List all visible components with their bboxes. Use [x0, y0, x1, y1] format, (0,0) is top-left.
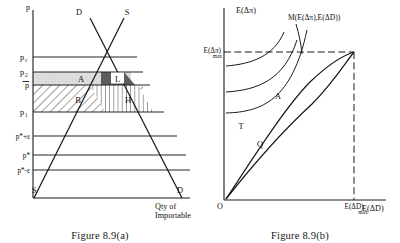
tangency-point-label: A	[275, 92, 281, 101]
figure-panel-a: D S S D p p c p 2 p p 1 p*+ε	[0, 0, 200, 243]
region-label-A: A	[78, 74, 85, 84]
curve-label-T: T	[238, 122, 243, 131]
panel-b-caption: Figure 8.9(b)	[200, 230, 400, 241]
indifference-curve-1	[226, 32, 284, 66]
price-tick-pc-sub: c	[25, 57, 28, 63]
figure-root: D S S D p p c p 2 p p 1 p*+ε	[0, 0, 400, 243]
objective-leader-line	[296, 24, 302, 54]
origin-label: O	[217, 202, 223, 211]
panel-a-caption: Figure 8.9(a)	[0, 230, 200, 241]
objective-function-label: M(E(Δπ),E(ΔD))	[288, 13, 341, 22]
y-max-label-sub: max	[213, 53, 223, 59]
panel-a-x-axis-label-line2: Importable	[155, 211, 191, 220]
panel-a-y-axis-label: p	[26, 3, 30, 12]
price-tick-pstar: p*	[23, 152, 31, 160]
indifference-curve-3	[226, 30, 307, 113]
price-tick-p1-main: p	[20, 108, 24, 117]
panel-a-chart: D S S D p p c p 2 p p 1 p*+ε	[0, 0, 200, 220]
y-max-label: E(Δπ) max	[204, 47, 223, 59]
price-tick-pbar: p	[23, 81, 30, 90]
panel-a-x-axis-label-line1: Qty of	[155, 202, 176, 211]
price-tick-pc: p c	[20, 53, 28, 63]
price-tick-p1-sub: 1	[25, 112, 28, 118]
price-tick-p1: p 1	[20, 108, 28, 118]
price-tick-pc-main: p	[20, 53, 24, 62]
demand-label-top: D	[76, 8, 82, 17]
price-tick-pstar-minus: p*-ε	[17, 167, 30, 175]
panel-b-y-axis-label: E(Δπ)	[236, 6, 256, 15]
price-tick-pstar-plus: p*+ε	[16, 133, 30, 141]
panel-b-chart: E(Δπ) E(ΔD) E(Δπ) max E(ΔD) max M(E(Δπ),…	[200, 0, 400, 220]
region-label-B: B	[75, 95, 81, 105]
frontier-curve-Q	[226, 52, 354, 199]
price-tick-pbar-main: p	[25, 81, 29, 90]
figure-panel-b: E(Δπ) E(ΔD) E(Δπ) max E(ΔD) max M(E(Δπ),…	[200, 0, 400, 243]
region-label-H: H	[125, 95, 131, 105]
price-tick-p2-main: p	[20, 68, 24, 77]
region-label-L: L	[115, 74, 120, 84]
demand-label-bottom: D	[177, 186, 183, 195]
supply-label-top: S	[125, 8, 130, 17]
x-max-label-sub: max	[358, 209, 368, 215]
curve-label-Q: Q	[257, 140, 263, 149]
supply-label-bottom: S	[32, 186, 37, 195]
price-tick-p2: p 2	[20, 68, 28, 78]
price-tick-p2-sub: 2	[25, 72, 28, 78]
